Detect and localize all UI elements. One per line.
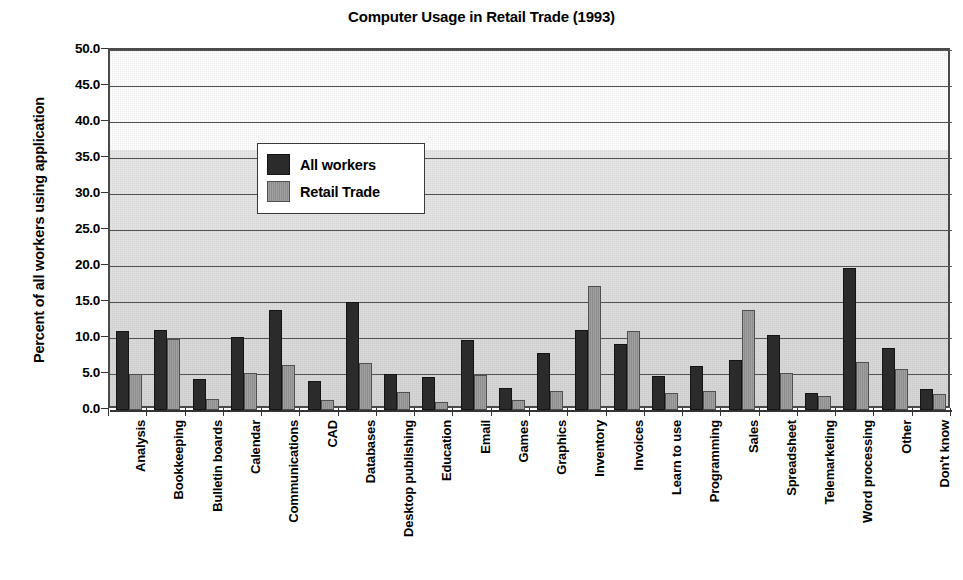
x-tick-mark — [146, 408, 147, 416]
x-tick-mark — [261, 408, 262, 416]
y-tick-label: 5.0 — [40, 365, 100, 380]
bar-group — [110, 50, 952, 410]
x-tick-mark — [567, 408, 568, 416]
plot-area: All workers Retail Trade — [108, 48, 950, 408]
x-tick-label: Desktop publishing — [401, 420, 416, 537]
y-tick-mark — [101, 300, 108, 301]
x-tick-mark — [108, 408, 109, 416]
y-tick-mark — [101, 372, 108, 373]
legend-swatch-retail-trade — [267, 181, 290, 202]
x-tick-label: Databases — [363, 420, 378, 483]
legend-label-all-workers: All workers — [300, 157, 376, 173]
x-tick-mark — [759, 408, 760, 416]
x-tick-label: Don't know — [937, 420, 952, 488]
x-tick-mark — [682, 408, 683, 416]
x-tick-mark — [452, 408, 453, 416]
y-tick-label: 35.0 — [40, 149, 100, 164]
y-tick-mark — [101, 84, 108, 85]
y-tick-mark — [101, 408, 108, 409]
y-tick-label: 20.0 — [40, 257, 100, 272]
y-tick-label: 40.0 — [40, 113, 100, 128]
x-tick-mark — [606, 408, 607, 416]
y-tick-mark — [101, 264, 108, 265]
x-tick-label: Other — [899, 420, 914, 454]
y-tick-label: 0.0 — [40, 401, 100, 416]
x-tick-label: Learn to use — [669, 420, 684, 495]
x-tick-mark — [912, 408, 913, 416]
x-tick-mark — [299, 408, 300, 416]
x-tick-mark — [873, 408, 874, 416]
x-tick-mark — [720, 408, 721, 416]
x-tick-label: Email — [478, 420, 493, 454]
x-tick-mark — [529, 408, 530, 416]
chart-legend: All workers Retail Trade — [257, 143, 425, 214]
y-tick-label: 15.0 — [40, 293, 100, 308]
x-tick-label: Bulletin boards — [210, 420, 225, 512]
x-tick-label: Graphics — [554, 420, 569, 475]
y-tick-mark — [101, 120, 108, 121]
bar — [920, 389, 933, 410]
x-tick-label: Programming — [707, 420, 722, 502]
x-tick-label: Bookkeeping — [171, 420, 186, 499]
x-axis-tick-labels: AnalysisBookkeepingBulletin boardsCalend… — [108, 418, 950, 578]
x-tick-mark — [491, 408, 492, 416]
x-tick-label: Inventory — [592, 420, 607, 477]
legend-label-retail-trade: Retail Trade — [300, 184, 380, 200]
x-tick-label: Analysis — [133, 420, 148, 472]
x-tick-mark — [185, 408, 186, 416]
legend-entry: Retail Trade — [267, 178, 415, 205]
x-tick-label: Spreadsheet — [784, 420, 799, 496]
x-tick-mark — [644, 408, 645, 416]
y-tick-label: 10.0 — [40, 329, 100, 344]
x-tick-mark — [835, 408, 836, 416]
x-tick-mark — [223, 408, 224, 416]
x-tick-mark — [338, 408, 339, 416]
x-tick-mark — [797, 408, 798, 416]
legend-entry: All workers — [267, 151, 415, 178]
x-tick-label: CAD — [325, 420, 340, 448]
y-tick-mark — [101, 156, 108, 157]
x-tick-label: Communications — [286, 420, 301, 523]
x-tick-mark — [414, 408, 415, 416]
x-tick-label: Invoices — [631, 420, 646, 470]
x-tick-mark — [376, 408, 377, 416]
y-tick-label: 30.0 — [40, 185, 100, 200]
x-tick-label: Telemarketing — [822, 420, 837, 505]
x-tick-label: Games — [516, 420, 531, 462]
y-tick-label: 45.0 — [40, 77, 100, 92]
y-tick-label: 25.0 — [40, 221, 100, 236]
x-tick-label: Calendar — [248, 420, 263, 474]
y-tick-mark — [101, 192, 108, 193]
legend-swatch-all-workers — [267, 154, 290, 175]
x-tick-label: Education — [439, 420, 454, 481]
y-tick-mark — [101, 336, 108, 337]
x-tick-mark — [950, 408, 951, 416]
y-tick-label: 50.0 — [40, 41, 100, 56]
y-tick-mark — [101, 228, 108, 229]
bars-layer — [110, 50, 952, 410]
x-tick-label: Sales — [746, 420, 761, 453]
bar-chart: Computer Usage in Retail Trade (1993) Pe… — [0, 0, 963, 580]
x-axis-tick-marks — [108, 408, 950, 418]
x-tick-label: Word processing — [860, 420, 875, 523]
y-tick-mark — [101, 48, 108, 49]
